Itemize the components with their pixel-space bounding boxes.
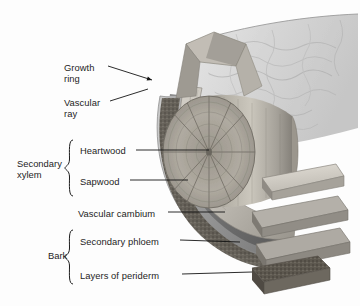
brace-bark bbox=[64, 229, 74, 285]
brace-secondary-xylem bbox=[64, 139, 74, 197]
growth-ring-leader-arrowhead bbox=[147, 77, 152, 81]
label-vascular-cambium: Vascular cambium bbox=[78, 208, 155, 219]
label-sapwood: Sapwood bbox=[80, 176, 119, 187]
figure-canvas: Growth ring Vascular ray Heartwood Sapwo… bbox=[0, 0, 360, 306]
layers-periderm-leader bbox=[182, 272, 252, 274]
label-layers-periderm: Layers of periderm bbox=[80, 270, 159, 281]
label-heartwood: Heartwood bbox=[80, 145, 126, 156]
label-secondary-phloem: Secondary phloem bbox=[80, 236, 159, 247]
label-vascular-ray: Vascular ray bbox=[64, 97, 100, 120]
growth-ring-leader bbox=[108, 66, 152, 80]
group-label-secondary-xylem: Secondary xylem bbox=[17, 158, 62, 181]
cross-section-face bbox=[163, 96, 255, 208]
label-growth-ring: Growth ring bbox=[64, 62, 95, 85]
vascular-ray-leader bbox=[110, 89, 148, 101]
